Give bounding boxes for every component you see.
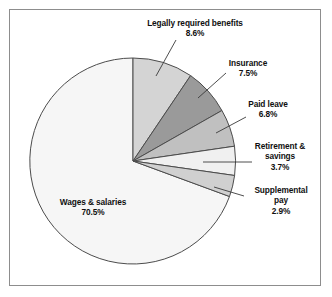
slice-label-legally-required-benefits: Legally required benefits 8.6% [130, 18, 260, 39]
slice-label-name: Supplemental [244, 185, 318, 195]
slice-label-name: Wages & salaries [38, 197, 148, 207]
slice-label-value: 7.5% [205, 68, 291, 78]
slice-label-name: Insurance [205, 58, 291, 68]
slice-label-supplemental-pay: Supplemental pay 2.9% [244, 185, 318, 216]
slice-label-name: Retirement & [244, 141, 316, 151]
slice-label-name: Legally required benefits [130, 18, 260, 28]
slice-label-paid-leave: Paid leave 6.8% [228, 99, 308, 120]
slice-label-value: 70.5% [38, 207, 148, 217]
slice-label-value: 3.7% [244, 162, 316, 172]
slice-label-name-cont: savings [244, 151, 316, 161]
slice-label-value: 6.8% [228, 109, 308, 119]
slice-label-insurance: Insurance 7.5% [205, 58, 291, 79]
slice-label-value: 8.6% [130, 28, 260, 38]
slice-label-retirement-savings: Retirement & savings 3.7% [244, 141, 316, 172]
slice-label-name: Paid leave [228, 99, 308, 109]
slice-label-value: 2.9% [244, 206, 318, 216]
slice-label-wages-salaries: Wages & salaries 70.5% [38, 197, 148, 218]
pie-chart-figure: Legally required benefits 8.6% Insurance… [0, 0, 332, 297]
slice-label-name-cont: pay [244, 195, 318, 205]
